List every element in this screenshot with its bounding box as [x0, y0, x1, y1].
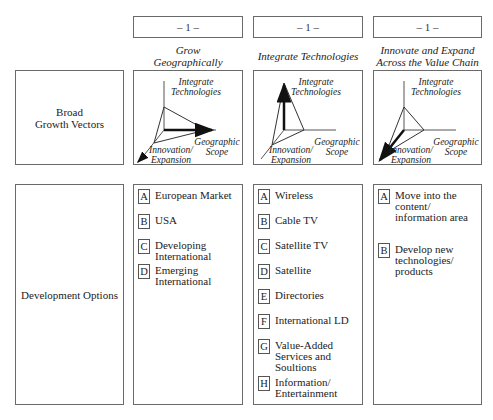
row-label-development-options: Development Options — [15, 184, 124, 405]
growth-vector-diagram-integrate: Integrate Technologies Geographic Scope … — [253, 70, 363, 165]
option-text: Value-Added Services and Soultions — [275, 339, 333, 373]
axis-label-integrate-technologies: Integrate Technologies — [166, 77, 226, 97]
option-item: A Move into the content/ information are… — [378, 189, 468, 223]
column-3-number-box: – 1 – — [373, 16, 482, 38]
option-letter-badge: D — [138, 264, 150, 279]
axis-label-innovation-expansion: Innovation/ Expansion — [146, 145, 196, 165]
axis-label-geographic-scope: Geographic Scope — [192, 137, 242, 157]
column-1-title: Grow Geographically — [133, 43, 243, 68]
option-text: Satellite TV — [275, 239, 328, 251]
axis-label-innovation-expansion: Innovation/ Expansion — [386, 145, 436, 165]
column-1-number-box: – 1 – — [133, 16, 243, 38]
column-3-title: Innovate and Expand Across the Value Cha… — [373, 43, 482, 68]
option-letter-badge: G — [258, 339, 270, 354]
option-text: International LD — [275, 314, 349, 326]
option-item: B USA — [138, 214, 177, 229]
option-text: Satellite — [275, 264, 311, 276]
option-letter-badge: B — [258, 214, 270, 229]
option-text: Information/ Entertainment — [275, 376, 337, 399]
option-item: A European Market — [138, 189, 232, 204]
column-2-number-box: – 1 – — [253, 16, 363, 38]
column-2-title: Integrate Technologies — [253, 43, 363, 68]
option-letter-badge: D — [258, 264, 270, 279]
option-text: USA — [155, 214, 177, 226]
option-letter-badge: B — [378, 243, 390, 258]
option-text: European Market — [155, 189, 232, 201]
option-letter-badge: C — [138, 239, 150, 254]
option-item: D Emerging International — [138, 264, 211, 287]
option-item: B Develop new technologies/ products — [378, 243, 454, 277]
option-item: D Satellite — [258, 264, 311, 279]
axis-label-integrate-technologies: Integrate Technologies — [286, 77, 346, 97]
axis-label-geographic-scope: Geographic Scope — [431, 137, 481, 157]
option-letter-badge: E — [258, 289, 270, 304]
option-text: Develop new technologies/ products — [395, 243, 454, 277]
option-letter-badge: A — [138, 189, 150, 204]
option-letter-badge: A — [378, 189, 390, 204]
option-letter-badge: C — [258, 239, 270, 254]
axis-label-integrate-technologies: Integrate Technologies — [406, 77, 466, 97]
option-letter-badge: A — [258, 189, 270, 204]
development-options-geographic: A European Market B USA C Developing Int… — [133, 184, 243, 405]
option-item: C Satellite TV — [258, 239, 328, 254]
growth-vector-diagram-geographic: Integrate Technologies Geographic Scope … — [133, 70, 243, 165]
option-item: B Cable TV — [258, 214, 318, 229]
option-item: A Wireless — [258, 189, 313, 204]
development-options-integrate: A Wireless B Cable TV C Satellite TV D S… — [253, 184, 363, 405]
option-item: F International LD — [258, 314, 349, 329]
growth-vector-diagram-innovation: Integrate Technologies Geographic Scope … — [373, 70, 482, 165]
option-text: Cable TV — [275, 214, 318, 226]
development-options-innovation: A Move into the content/ information are… — [373, 184, 482, 405]
option-item: C Developing International — [138, 239, 211, 262]
option-text: Directories — [275, 289, 324, 301]
option-item: H Information/ Entertainment — [258, 376, 337, 399]
option-letter-badge: F — [258, 314, 270, 329]
axis-label-geographic-scope: Geographic Scope — [312, 137, 362, 157]
option-item: E Directories — [258, 289, 324, 304]
option-item: G Value-Added Services and Soultions — [258, 339, 333, 373]
option-letter-badge: B — [138, 214, 150, 229]
option-letter-badge: H — [258, 376, 270, 391]
row-label-growth-vectors: Broad Growth Vectors — [15, 70, 124, 165]
axis-label-innovation-expansion: Innovation/ Expansion — [266, 145, 316, 165]
option-text: Emerging International — [155, 264, 211, 287]
option-text: Developing International — [155, 239, 211, 262]
option-text: Wireless — [275, 189, 313, 201]
option-text: Move into the content/ information area — [395, 189, 468, 223]
